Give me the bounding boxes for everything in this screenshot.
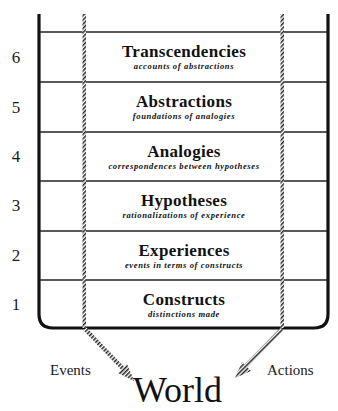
level-row-hypotheses: Hypotheses rationalizations of experienc…	[86, 192, 282, 220]
level-number-6: 6	[8, 48, 24, 68]
level-title: Experiences	[86, 242, 282, 260]
level-number-3: 3	[8, 196, 24, 216]
level-row-abstractions: Abstractions foundations of analogies	[86, 93, 282, 121]
level-title: Abstractions	[86, 93, 282, 111]
level-number-2: 2	[8, 246, 24, 266]
world-label: World	[133, 370, 222, 410]
level-title: Hypotheses	[86, 192, 282, 210]
level-row-analogies: Analogies correspondences between hypoth…	[70, 143, 298, 171]
level-subtitle: distinctions made	[86, 309, 282, 319]
level-row-transcendencies: Transcendencies accounts of abstractions	[86, 43, 282, 71]
level-title: Constructs	[86, 291, 282, 309]
level-subtitle: events in terms of constructs	[86, 260, 282, 270]
level-subtitle: correspondences between hypotheses	[70, 161, 298, 171]
level-row-constructs: Constructs distinctions made	[86, 291, 282, 319]
level-subtitle: rationalizations of experience	[86, 210, 282, 220]
level-number-1: 1	[8, 295, 24, 315]
level-number-4: 4	[8, 147, 24, 167]
actions-label: Actions	[267, 362, 314, 379]
events-arrow-icon	[85, 329, 134, 381]
level-subtitle: accounts of abstractions	[86, 61, 282, 71]
level-title: Transcendencies	[86, 43, 282, 61]
level-title: Analogies	[70, 143, 298, 161]
events-label: Events	[50, 362, 91, 379]
level-row-experiences: Experiences events in terms of construct…	[86, 242, 282, 270]
level-number-5: 5	[8, 98, 24, 118]
level-subtitle: foundations of analogies	[86, 111, 282, 121]
